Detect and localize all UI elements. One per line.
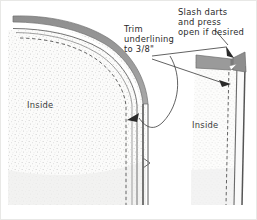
illustration-canvas — [0, 0, 257, 220]
inside-label-right: Inside — [192, 120, 218, 130]
sewing-illustration-figure: Trim underlining to 3/8" Slash darts and… — [0, 0, 257, 220]
inside-label-left: Inside — [27, 100, 53, 110]
right-fabric-shading — [191, 168, 234, 205]
